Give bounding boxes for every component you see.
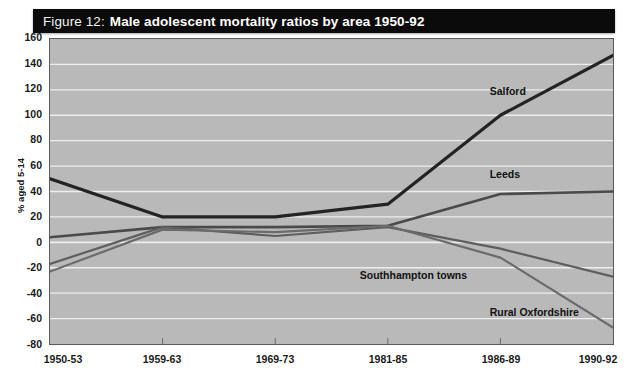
- x-tick-1959-63: 1959-63: [143, 353, 182, 365]
- x-tick-1981-85: 1981-85: [369, 353, 408, 365]
- x-tick-1990-92: 1990-92: [579, 353, 618, 365]
- x-tick-1950-53: 1950-53: [44, 353, 83, 365]
- x-tick-1986-89: 1986-89: [482, 353, 521, 365]
- x-axis-tick-labels: 1950-531959-631969-731981-851986-891990-…: [0, 0, 632, 373]
- x-tick-1969-73: 1969-73: [256, 353, 295, 365]
- figure-12-chart: Figure 12: Male adolescent mortality rat…: [0, 0, 632, 373]
